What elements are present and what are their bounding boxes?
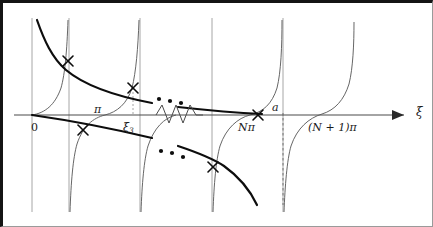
label-n-plus-1-pi: (N + 1)π xyxy=(308,122,357,133)
lower-thick-curve-left xyxy=(32,115,152,138)
dashed-verticals xyxy=(133,88,283,205)
tan-branch-1 xyxy=(70,20,139,212)
ellipsis-dot xyxy=(179,101,183,105)
tan-branches xyxy=(32,20,354,212)
label-pi: π xyxy=(94,104,101,115)
ellipsis-dot xyxy=(170,151,174,155)
x-marker-1 xyxy=(63,56,73,66)
tan-branch-N1 xyxy=(284,22,354,212)
ellipsis-lower xyxy=(159,149,185,159)
label-a: a xyxy=(272,102,279,113)
ellipsis-upper xyxy=(157,97,183,105)
ellipsis-dot xyxy=(181,155,185,159)
x-marker-4 xyxy=(78,125,88,135)
label-xi3-subscript: 3 xyxy=(129,126,134,135)
plot-canvas xyxy=(0,0,433,227)
label-axis-xi: ξ xyxy=(416,106,423,118)
x-axis-arrowhead xyxy=(392,110,404,120)
upper-thick-curve-right xyxy=(178,107,262,114)
tan-branch-2 xyxy=(141,115,176,212)
ellipsis-dot xyxy=(157,97,161,101)
label-xi3: ξ3 xyxy=(123,122,134,135)
tan-branch-N xyxy=(213,20,282,212)
lower-thick-curve-right xyxy=(178,146,257,205)
label-origin: 0 xyxy=(31,122,38,133)
label-n-pi: Nπ xyxy=(238,122,255,133)
ellipsis-dot xyxy=(159,149,163,153)
math-figure: 0 π ξ3 Nπ a (N + 1)π ξ xyxy=(0,0,433,227)
intersection-markers xyxy=(63,56,263,172)
ellipsis-dot xyxy=(168,99,172,103)
x-axis xyxy=(14,110,404,120)
